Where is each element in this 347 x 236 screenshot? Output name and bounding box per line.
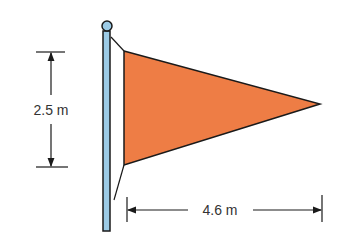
length-dimension: 4.6 m bbox=[127, 195, 322, 222]
flag bbox=[124, 51, 320, 165]
pole-finial bbox=[102, 21, 112, 31]
flagpole bbox=[102, 21, 112, 231]
rope-top bbox=[111, 37, 124, 51]
flag-diagram: 2.5 m 4.6 m bbox=[0, 0, 347, 236]
length-label: 4.6 m bbox=[202, 202, 237, 218]
rope-bottom bbox=[114, 165, 124, 200]
height-dimension: 2.5 m bbox=[33, 52, 68, 167]
height-label: 2.5 m bbox=[33, 102, 68, 118]
